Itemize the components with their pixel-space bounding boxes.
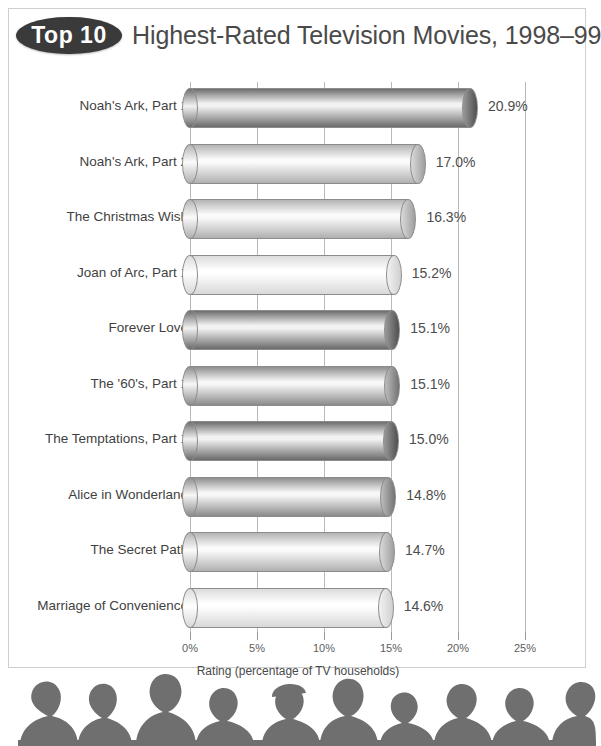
bar-cap-right	[384, 310, 400, 350]
bar-value-label: 15.2%	[412, 265, 452, 281]
bar-cap-left	[182, 421, 198, 461]
bar-body	[190, 366, 392, 406]
category-label: Noah's Ark, Part 1	[80, 98, 188, 113]
bar-value-label: 17.0%	[436, 154, 476, 170]
bar	[190, 310, 392, 350]
bar-cap-left	[182, 588, 198, 628]
bar-row: Alice in Wonderland14.8%	[0, 471, 596, 523]
bar-row: Noah's Ark, Part 120.9%	[0, 82, 596, 134]
x-tick-label: 5%	[249, 642, 265, 654]
x-tick-label: 10%	[313, 642, 335, 654]
bar-row: Forever Love15.1%	[0, 304, 596, 356]
bar-value-label: 15.1%	[410, 320, 450, 336]
bar-body	[190, 199, 408, 239]
category-label: The Secret Path	[90, 542, 188, 557]
bar-body	[190, 255, 394, 295]
audience-silhouette-image	[0, 668, 596, 746]
bar-value-label: 16.3%	[426, 209, 466, 225]
bar-body	[190, 421, 391, 461]
bar	[190, 532, 387, 572]
bar-value-label: 14.8%	[406, 487, 446, 503]
bar-row: Joan of Arc, Part 115.2%	[0, 249, 596, 301]
bar-row: Noah's Ark, Part 217.0%	[0, 138, 596, 190]
bar-row: The Christmas Wish16.3%	[0, 193, 596, 245]
bar-cap-left	[182, 199, 198, 239]
bar-cap-right	[462, 88, 478, 128]
top10-badge: Top 10	[16, 17, 122, 54]
bar-cap-left	[182, 88, 198, 128]
category-label: Joan of Arc, Part 1	[77, 265, 188, 280]
bar-body	[190, 532, 387, 572]
page-title: Highest-Rated Television Movies, 1998–99	[132, 21, 601, 50]
bar-cap-right	[379, 532, 395, 572]
bar-row: The Temptations, Part 115.0%	[0, 415, 596, 467]
bar-cap-right	[386, 255, 402, 295]
category-label: The Temptations, Part 1	[45, 431, 188, 446]
category-label: The '60's, Part 1	[91, 376, 188, 391]
x-tick-label: 0%	[182, 642, 198, 654]
bar-cap-left	[182, 366, 198, 406]
x-tick-label: 20%	[447, 642, 469, 654]
bar-cap-left	[182, 532, 198, 572]
category-label: Marriage of Convenience	[37, 598, 188, 613]
bar	[190, 366, 392, 406]
bar	[190, 588, 386, 628]
bar-body	[190, 477, 388, 517]
x-tick-label: 25%	[514, 642, 536, 654]
bar-row: The Secret Path14.7%	[0, 526, 596, 578]
category-label: The Christmas Wish	[66, 209, 188, 224]
bar	[190, 421, 391, 461]
bar-row: The '60's, Part 115.1%	[0, 360, 596, 412]
bar-row: Marriage of Convenience14.6%	[0, 582, 596, 634]
bar-value-label: 14.6%	[404, 598, 444, 614]
bar-cap-right	[383, 421, 399, 461]
bar-cap-left	[182, 144, 198, 184]
bar-body	[190, 88, 470, 128]
chart-title: Top 10 Highest-Rated Television Movies, …	[16, 14, 601, 56]
bar-value-label: 20.9%	[488, 98, 528, 114]
category-label: Alice in Wonderland	[68, 487, 188, 502]
bar-cap-right	[380, 477, 396, 517]
bar-cap-left	[182, 477, 198, 517]
bar-value-label: 15.1%	[410, 376, 450, 392]
bar	[190, 199, 408, 239]
bar-value-label: 14.7%	[405, 542, 445, 558]
bar	[190, 477, 388, 517]
bar-body	[190, 588, 386, 628]
bar	[190, 144, 418, 184]
bar-body	[190, 310, 392, 350]
category-label: Noah's Ark, Part 2	[80, 154, 188, 169]
bar-value-label: 15.0%	[409, 431, 449, 447]
bar-cap-right	[400, 199, 416, 239]
bar-body	[190, 144, 418, 184]
plot-area: 0%5%10%15%20%25% Noah's Ark, Part 120.9%…	[0, 70, 596, 635]
audience-silhouette-icon	[0, 668, 596, 746]
bar-cap-left	[182, 310, 198, 350]
x-tick-label: 15%	[380, 642, 402, 654]
bar-cap-right	[384, 366, 400, 406]
bar-cap-left	[182, 255, 198, 295]
bar	[190, 88, 470, 128]
bar	[190, 255, 394, 295]
category-label: Forever Love	[108, 320, 188, 335]
bar-cap-right	[378, 588, 394, 628]
bar-cap-right	[410, 144, 426, 184]
